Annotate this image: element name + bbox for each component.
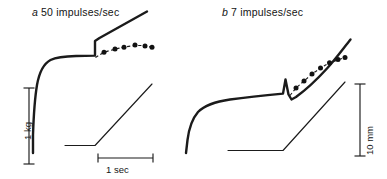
panel-b-length-trace xyxy=(228,82,345,151)
panel-b-tension-trace xyxy=(186,40,351,154)
data-point xyxy=(302,79,307,84)
time-calibration-bar xyxy=(98,154,153,163)
data-point xyxy=(113,47,118,52)
data-point xyxy=(122,45,127,50)
figure-root: a50 impulses/sec b7 impulses/sec 1 kg 10… xyxy=(0,0,387,179)
data-point xyxy=(310,72,315,77)
data-point xyxy=(150,45,155,50)
data-point xyxy=(102,50,107,55)
panel-a-data-points xyxy=(102,43,155,55)
figure-canvas xyxy=(0,0,387,179)
data-point xyxy=(318,66,323,71)
data-point xyxy=(327,60,332,65)
data-point xyxy=(143,43,148,48)
panel-b-data-points xyxy=(294,55,348,91)
panel-a-plot xyxy=(24,12,155,165)
data-point xyxy=(336,57,341,62)
panel-a-tension-trace xyxy=(33,12,147,154)
length-calibration-bar xyxy=(355,84,366,156)
data-point xyxy=(294,86,299,91)
panel-b-measured-dotted-line xyxy=(290,58,345,96)
panel-b-plot xyxy=(186,40,366,157)
data-point xyxy=(133,43,138,48)
panel-a-length-trace xyxy=(65,84,152,146)
data-point xyxy=(343,55,348,60)
